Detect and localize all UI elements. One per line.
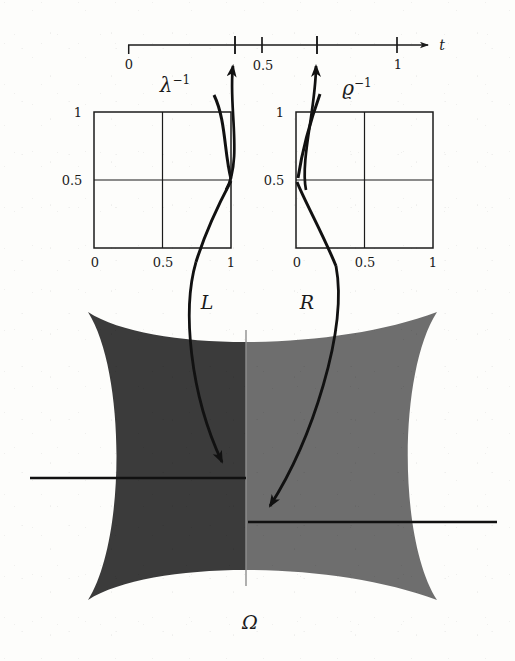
t-axis-label-half: 0.5	[253, 59, 274, 72]
t-axis-label-0: 0	[125, 58, 133, 71]
left-plot-xlabel-1: 1	[227, 256, 235, 269]
lambda-inverse-label: λ−1	[160, 75, 190, 95]
right-plot-ylabel-half: 0.5	[264, 174, 285, 187]
left-plot-ylabel-1: 1	[74, 106, 82, 119]
right-plot-xlabel-1: 1	[429, 256, 437, 269]
map-label-R: R	[300, 293, 314, 312]
map-label-L: L	[201, 293, 214, 312]
left-plot-curve-upper	[214, 95, 231, 179]
t-axis	[128, 36, 428, 54]
figure-vector-layer	[0, 0, 515, 661]
t-axis-variable-label: t	[439, 38, 445, 52]
right-plot	[296, 94, 433, 266]
lambda-exponent: −1	[172, 73, 190, 87]
varrho-symbol: ϱ	[342, 76, 354, 100]
t-axis-label-1: 1	[394, 58, 402, 71]
left-plot-curve-lower	[196, 181, 231, 262]
figure-canvas: 0 0.5 1 t λ−1 ϱ−1 1 0.5 0 0.5 1 1 0.5 0 …	[0, 0, 515, 661]
right-plot-xlabel-half: 0.5	[355, 256, 376, 269]
left-plot-ylabel-half: 0.5	[62, 174, 83, 187]
omega-region	[88, 312, 437, 600]
right-plot-curve-lower	[297, 182, 336, 266]
right-plot-ylabel-1: 1	[276, 106, 284, 119]
left-plot-xlabel-0: 0	[91, 256, 99, 269]
lambda-symbol: λ	[160, 73, 173, 97]
left-plot	[94, 95, 231, 262]
varrho-inverse-label: ϱ−1	[342, 78, 371, 98]
omega-label: Ω	[242, 613, 258, 632]
varrho-exponent: −1	[354, 76, 372, 90]
left-plot-xlabel-half: 0.5	[153, 256, 174, 269]
right-plot-xlabel-0: 0	[293, 256, 301, 269]
